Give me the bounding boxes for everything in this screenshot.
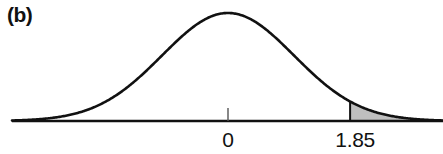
distribution-curve [12,13,443,121]
normal-curve-figure: (b) 0 1.85 [0,0,443,154]
normal-curve-plot: 0 1.85 [0,0,443,154]
tick-label-threshold: 1.85 [335,128,375,151]
tick-label-zero: 0 [222,128,233,151]
